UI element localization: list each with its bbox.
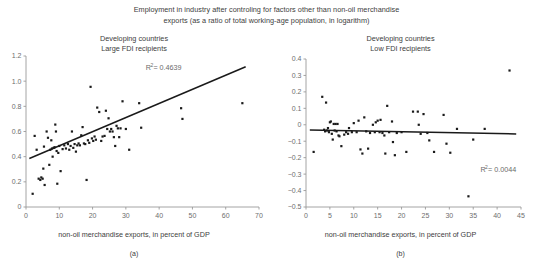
data-point <box>484 128 486 130</box>
x-tick-label: 5 <box>328 212 332 219</box>
panel-b-scatter-svg: −0.5−0.4−0.3−0.2−0.100.10.20.30.40510152… <box>268 0 533 261</box>
panel-a-plot-area: 00.20.40.60.81.01.2010203040506070R2 = 0… <box>0 0 268 261</box>
data-point <box>467 195 469 197</box>
y-tick-label: −0.2 <box>288 154 302 161</box>
data-point <box>32 193 34 195</box>
panel-b-plot-area: −0.5−0.4−0.3−0.2−0.100.10.20.30.40510152… <box>268 0 533 261</box>
data-point <box>71 130 73 132</box>
y-tick-label: 0.4 <box>12 153 22 160</box>
data-point <box>88 142 90 144</box>
data-point <box>119 127 121 129</box>
data-point <box>140 127 142 129</box>
data-point <box>327 127 329 129</box>
y-tick-label: 0 <box>298 121 302 128</box>
data-point <box>68 149 70 151</box>
data-point <box>115 125 117 127</box>
data-point <box>93 135 95 137</box>
data-point <box>345 131 347 133</box>
data-point <box>44 184 46 186</box>
x-tick-label: 10 <box>55 212 63 219</box>
y-tick-label: 1.0 <box>12 78 22 85</box>
data-point <box>372 124 374 126</box>
panel-b-trendline <box>310 130 516 134</box>
y-tick-label: 0.2 <box>12 178 22 185</box>
y-tick-label: −0.4 <box>288 187 302 194</box>
data-point <box>361 152 363 154</box>
data-point <box>65 147 67 149</box>
data-point <box>417 111 419 113</box>
data-point <box>114 145 116 147</box>
data-point <box>110 128 112 130</box>
y-tick-label: 0.4 <box>292 55 302 62</box>
data-point <box>426 132 428 134</box>
x-tick-label: 25 <box>422 212 430 219</box>
data-point <box>98 111 100 113</box>
y-tick-label: 1.2 <box>12 52 22 59</box>
data-point <box>43 146 45 148</box>
data-point <box>336 123 338 125</box>
data-point <box>456 128 458 130</box>
x-tick-label: 35 <box>469 212 477 219</box>
x-tick-label: 45 <box>517 212 525 219</box>
data-point <box>379 119 381 121</box>
x-tick-label: 30 <box>445 212 453 219</box>
data-point <box>121 100 123 102</box>
data-point <box>418 124 420 126</box>
data-point <box>100 140 102 142</box>
data-point <box>422 113 424 115</box>
r2-value: = 0.0044 <box>488 165 516 174</box>
data-point <box>338 135 340 137</box>
data-point <box>47 137 49 139</box>
data-point <box>91 137 93 139</box>
x-tick-label: 50 <box>189 212 197 219</box>
data-point <box>445 143 447 145</box>
data-point <box>449 152 451 154</box>
data-point <box>386 105 388 107</box>
data-point <box>343 134 345 136</box>
data-point <box>369 132 371 134</box>
data-point <box>46 130 48 132</box>
data-point <box>353 122 355 124</box>
panel-a-x-axis-label: non-oil merchandise exports, in percent … <box>0 230 268 239</box>
data-point <box>396 132 398 134</box>
data-point <box>58 145 60 147</box>
data-point <box>363 116 365 118</box>
data-point <box>48 164 50 166</box>
x-tick-label: 15 <box>374 212 382 219</box>
data-point <box>57 152 59 154</box>
data-point <box>241 102 243 104</box>
x-tick-label: 0 <box>24 212 28 219</box>
data-point <box>67 143 69 145</box>
panel-a-caption: (a) <box>0 250 268 257</box>
data-point <box>107 117 109 119</box>
data-point <box>63 144 65 146</box>
y-tick-label: 0.2 <box>292 88 302 95</box>
data-point <box>333 123 335 125</box>
panel-a-data-points <box>32 86 244 195</box>
data-point <box>405 151 407 153</box>
data-point <box>472 138 474 140</box>
data-point <box>56 183 58 185</box>
data-point <box>85 179 87 181</box>
data-point <box>180 107 182 109</box>
data-point <box>113 136 115 138</box>
y-tick-label: 0.8 <box>12 103 22 110</box>
data-point <box>313 151 315 153</box>
panel-b: Developing countries Low FDI recipients … <box>268 0 533 261</box>
data-point <box>125 128 127 130</box>
data-point <box>347 133 349 135</box>
data-point <box>118 136 120 138</box>
data-point <box>391 120 393 122</box>
data-point <box>326 129 328 131</box>
data-point <box>400 131 402 133</box>
data-point <box>377 120 379 122</box>
panel-b-caption: (b) <box>268 250 533 257</box>
data-point <box>128 149 130 151</box>
data-point <box>357 120 359 122</box>
data-point <box>324 130 326 132</box>
data-point <box>62 148 64 150</box>
data-point <box>89 86 91 88</box>
data-point <box>106 128 108 130</box>
data-point <box>73 143 75 145</box>
data-point <box>384 152 386 154</box>
